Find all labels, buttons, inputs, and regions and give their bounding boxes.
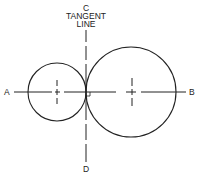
- label-b: B: [189, 87, 195, 97]
- label-a: A: [4, 87, 10, 97]
- label-line: LINE: [77, 19, 96, 29]
- label-d: D: [83, 164, 89, 174]
- tangent-circles-diagram: C TANGENT LINE D A B: [0, 0, 201, 182]
